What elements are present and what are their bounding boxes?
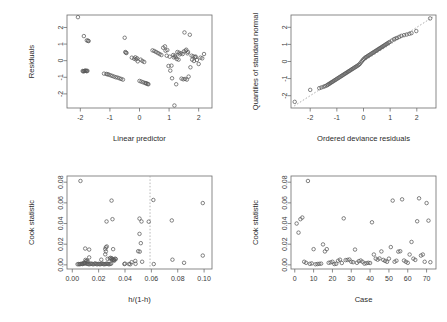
y-tick-label: 0.06	[57, 196, 64, 210]
y-tick-label: 0	[57, 59, 64, 63]
data-point	[87, 248, 91, 252]
data-point	[152, 262, 156, 266]
y-tick-label: 0.02	[57, 237, 64, 251]
data-point	[410, 31, 414, 35]
x-axis-title: Case	[355, 295, 373, 304]
data-point	[123, 36, 127, 40]
x-tick-label: 1	[388, 114, 392, 121]
data-point	[139, 241, 143, 245]
data-point	[170, 77, 174, 81]
data-point	[415, 29, 419, 33]
data-point	[342, 217, 346, 221]
x-tick-label: 0.00	[65, 275, 79, 282]
y-tick-label: 0.04	[281, 217, 288, 231]
data-point	[105, 220, 109, 224]
data-point	[293, 100, 297, 104]
x-tick-label: 0	[293, 275, 297, 282]
data-point	[340, 261, 344, 265]
plot-frame	[291, 176, 436, 269]
y-axis-title: Cook statistic	[27, 200, 36, 245]
y-tick-label: 0.00	[281, 258, 288, 272]
y-tick-label: -2	[281, 92, 288, 98]
diagnostic-plot-figure: -2-1012-2-1012Linear predictorResiduals …	[0, 0, 447, 322]
data-point	[295, 222, 299, 226]
panel-cook-vs-leverage: 0.000.020.040.060.080.100.000.020.040.06…	[0, 161, 223, 322]
data-point	[152, 198, 156, 202]
data-point	[147, 220, 151, 224]
x-tick-label: -1	[107, 114, 113, 121]
data-point	[111, 247, 115, 251]
data-point	[140, 260, 144, 264]
data-point	[201, 201, 205, 205]
data-point	[370, 221, 374, 225]
x-tick-label: 70	[423, 275, 431, 282]
data-point	[353, 248, 357, 252]
data-point	[170, 219, 174, 223]
y-tick-label: 1	[281, 42, 288, 46]
data-point	[400, 198, 404, 202]
panel-normal-qq: -2-1012-2-1012Ordered deviance residuals…	[224, 0, 447, 161]
data-point	[427, 219, 431, 223]
data-points	[76, 15, 206, 107]
data-point	[415, 220, 419, 224]
x-tick-label: 2	[197, 114, 201, 121]
data-point	[110, 199, 114, 203]
data-point	[111, 217, 115, 221]
y-tick-label: 1	[57, 42, 64, 46]
data-point	[202, 52, 206, 56]
y-axis-title: Quantiles of standard normal	[251, 12, 260, 110]
data-point	[183, 31, 187, 35]
y-tick-label: -1	[57, 74, 64, 80]
x-tick-label: 0	[362, 114, 366, 121]
data-point	[429, 260, 433, 264]
data-point	[140, 220, 144, 224]
data-points	[76, 179, 205, 266]
y-axis-title: Cook statistic	[251, 200, 260, 245]
panel-residuals-vs-linear-predictor: -2-1012-2-1012Linear predictorResiduals	[0, 0, 223, 161]
data-point	[372, 253, 376, 257]
y-tick-label: 0.00	[57, 258, 64, 272]
y-tick-label: 0.08	[281, 175, 288, 189]
data-point	[173, 104, 177, 108]
data-point	[83, 247, 87, 251]
data-point	[410, 240, 414, 244]
data-point	[171, 258, 175, 262]
x-tick-label: 0.08	[171, 275, 185, 282]
data-point	[169, 69, 173, 73]
y-tick-label: -1	[281, 75, 288, 81]
x-tick-label: 50	[385, 275, 393, 282]
y-tick-label: 0.04	[57, 217, 64, 231]
data-point	[308, 88, 312, 92]
data-point	[428, 17, 432, 21]
data-points	[293, 17, 432, 104]
plot-frame	[67, 176, 212, 269]
data-point	[76, 15, 80, 19]
data-point	[387, 257, 391, 261]
data-point	[174, 83, 178, 87]
data-point	[312, 247, 316, 251]
data-point	[100, 258, 104, 262]
data-points	[295, 179, 432, 266]
data-point	[188, 33, 192, 37]
x-tick-label: 2	[415, 114, 419, 121]
data-point	[201, 254, 205, 258]
data-point	[79, 179, 83, 183]
x-tick-label: 0.06	[145, 275, 159, 282]
data-point	[187, 75, 191, 79]
data-point	[389, 245, 393, 249]
x-axis-title: Ordered deviance residuals	[317, 134, 410, 143]
y-tick-label: 2	[57, 25, 64, 29]
data-point	[323, 250, 327, 254]
data-point	[105, 245, 109, 249]
x-tick-label: 20	[329, 275, 337, 282]
y-tick-label: 2	[281, 25, 288, 29]
y-tick-label: 0.02	[281, 237, 288, 251]
x-tick-label: -2	[307, 114, 313, 121]
data-point	[391, 199, 395, 203]
x-axis-title: h/(1-h)	[128, 295, 151, 304]
x-tick-label: 0.04	[118, 275, 132, 282]
data-point	[417, 197, 421, 201]
y-tick-label: 0.08	[57, 175, 64, 189]
x-tick-label: 40	[366, 275, 374, 282]
x-tick-label: 30	[347, 275, 355, 282]
